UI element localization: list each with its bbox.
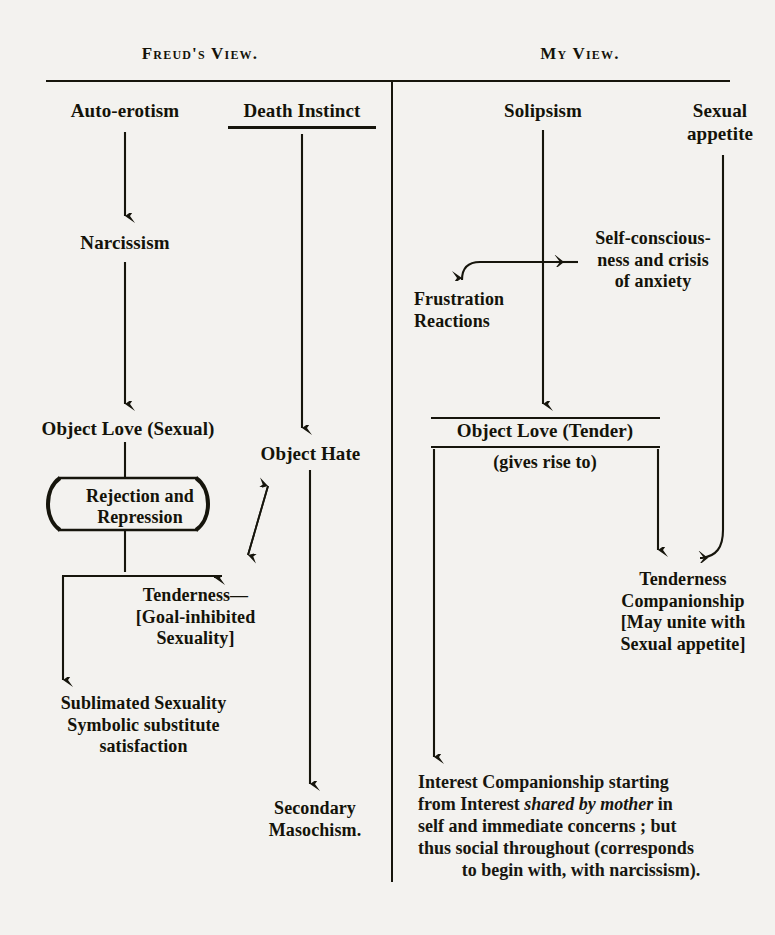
- node-narcissism: Narcissism: [35, 232, 215, 253]
- node-object-love-tender: Object Love (Tender): [424, 420, 666, 441]
- node-gives-rise-to: (gives rise to): [450, 452, 640, 472]
- interest-line-1b: starting: [609, 772, 669, 792]
- object-love-tender-rule-top: [431, 417, 660, 419]
- connector-self-consciousness-to-frustration: [462, 262, 556, 280]
- node-object-hate: Object Hate: [243, 443, 378, 464]
- node-rejection-and-repression: Rejection and Repression: [60, 486, 220, 528]
- interest-line-2-italic: shared by mother: [524, 794, 653, 814]
- connector-double-headed-arrow: [248, 486, 268, 555]
- interest-line-1a: Interest Companionship: [418, 772, 609, 792]
- object-love-tender-rule-bottom: [431, 446, 660, 448]
- node-interest-companionship: Interest Companionship starting from Int…: [418, 772, 744, 882]
- node-secondary-masochism: Secondary Masochism.: [235, 798, 395, 841]
- node-death-instinct: Death Instinct: [222, 100, 382, 121]
- top-rule-right: [392, 80, 730, 82]
- node-self-consciousness: Self-conscious- ness and crisis of anxie…: [573, 228, 733, 293]
- node-sublimated-sexuality: Sublimated Sexuality Symbolic substitute…: [16, 693, 271, 758]
- interest-line-4: thus social throughout (corresponds: [418, 838, 744, 860]
- node-solipsism: Solipsism: [483, 100, 603, 121]
- connector-sexual-appetite-to-tenderness: [700, 155, 723, 558]
- interest-line-1: Interest Companionship starting: [418, 772, 744, 794]
- node-frustration-reactions: Frustration Reactions: [414, 289, 544, 332]
- interest-line-2b: in: [653, 794, 673, 814]
- node-tenderness-goal-inhibited: Tenderness— [Goal-inhibited Sexuality]: [103, 585, 288, 650]
- column-header-my-view: My View.: [440, 44, 720, 64]
- node-tenderness-companionship: Tenderness Companionship [May unite with…: [594, 569, 772, 655]
- diagram-page: Freud's View. My View. Auto-erotism Deat…: [0, 0, 775, 935]
- column-header-freuds-view: Freud's View.: [60, 44, 340, 64]
- top-rule-left: [46, 80, 392, 82]
- interest-line-3: self and immediate concerns ; but: [418, 816, 744, 838]
- interest-line-5: to begin with, with narcissism).: [418, 860, 744, 882]
- interest-line-2: from Interest shared by mother in: [418, 794, 744, 816]
- underline-death-instinct: [228, 126, 376, 129]
- node-object-love-sexual: Object Love (Sexual): [18, 418, 238, 439]
- node-auto-erotism: Auto-erotism: [35, 100, 215, 121]
- node-sexual-appetite: Sexual appetite: [665, 100, 775, 146]
- interest-line-2a: from Interest: [418, 794, 524, 814]
- column-divider: [391, 80, 393, 882]
